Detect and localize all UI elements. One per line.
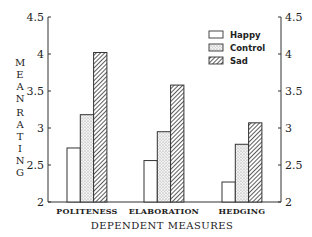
bar-sad-elaboration bbox=[171, 85, 184, 202]
svg-text:R: R bbox=[16, 107, 24, 118]
y-tick-label-right: 3 bbox=[285, 122, 292, 135]
bar-sad-hedging bbox=[249, 123, 262, 202]
bar-happy-politeness bbox=[67, 148, 80, 202]
svg-text:T: T bbox=[17, 131, 24, 142]
svg-text:M: M bbox=[15, 57, 25, 68]
y-tick-label-left: 2 bbox=[37, 196, 44, 209]
y-tick-label-right: 4.5 bbox=[285, 11, 303, 24]
y-tick-label-left: 2.5 bbox=[27, 159, 45, 172]
bar-series bbox=[67, 53, 262, 202]
svg-text:I: I bbox=[18, 143, 22, 154]
svg-text:N: N bbox=[16, 155, 25, 166]
bar-happy-elaboration bbox=[144, 161, 157, 202]
legend-label-happy: Happy bbox=[230, 30, 261, 40]
y-tick-label-right: 2 bbox=[285, 196, 292, 209]
y-axis-left: 22.533.544.5 bbox=[27, 11, 52, 209]
bar-chart: 22.533.544.5 22.533.544.5 POLITENESSELAB… bbox=[0, 0, 312, 237]
category-label: HEDGING bbox=[219, 206, 266, 216]
y-axis-right: 22.533.544.5 bbox=[278, 11, 303, 209]
category-label: ELABORATION bbox=[129, 206, 199, 216]
y-axis-title: MEANRATING bbox=[15, 57, 25, 178]
legend-swatch-control bbox=[209, 44, 223, 51]
x-axis-title: DEPENDENT MEASURES bbox=[91, 220, 234, 231]
legend-label-control: Control bbox=[230, 43, 265, 53]
y-tick-label-left: 4.5 bbox=[27, 11, 45, 24]
svg-text:G: G bbox=[16, 167, 24, 178]
bar-happy-hedging bbox=[222, 182, 235, 202]
legend-swatch-sad bbox=[209, 57, 223, 64]
bar-control-elaboration bbox=[157, 132, 170, 202]
category-label: POLITENESS bbox=[56, 206, 117, 216]
svg-text:N: N bbox=[16, 93, 25, 104]
svg-text:E: E bbox=[16, 69, 23, 80]
y-tick-label-left: 3 bbox=[37, 122, 44, 135]
bar-sad-politeness bbox=[94, 53, 107, 202]
y-tick-label-right: 4 bbox=[285, 48, 292, 61]
legend-swatch-happy bbox=[209, 31, 223, 38]
category-labels: POLITENESSELABORATIONHEDGING bbox=[56, 206, 265, 216]
y-tick-label-right: 2.5 bbox=[285, 159, 303, 172]
y-tick-label-left: 3.5 bbox=[27, 85, 45, 98]
legend-label-sad: Sad bbox=[230, 56, 248, 66]
legend: HappyControlSad bbox=[209, 30, 265, 66]
svg-text:A: A bbox=[15, 119, 24, 130]
y-tick-label-left: 4 bbox=[37, 48, 44, 61]
bar-control-hedging bbox=[235, 144, 248, 202]
bar-control-politeness bbox=[80, 115, 93, 202]
y-tick-label-right: 3.5 bbox=[285, 85, 303, 98]
svg-text:A: A bbox=[15, 81, 24, 92]
